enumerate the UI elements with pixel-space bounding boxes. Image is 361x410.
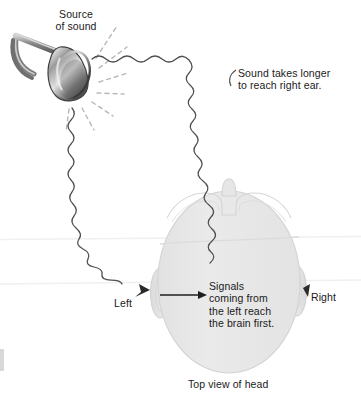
sound-localization-diagram: Source of sound Sound takes longer to re… (0, 0, 361, 410)
source-of-sound-label: Source of sound (36, 8, 116, 33)
arrow-right-icon (0, 0, 361, 410)
sound-delay-label: Sound takes longer to reach right ear. (238, 67, 358, 92)
right-ear-label: Right (311, 291, 336, 303)
left-ear-label: Left (114, 297, 132, 309)
figure-caption: Top view of head (188, 378, 268, 390)
signals-label: Signals coming from the left reach the b… (209, 280, 319, 329)
